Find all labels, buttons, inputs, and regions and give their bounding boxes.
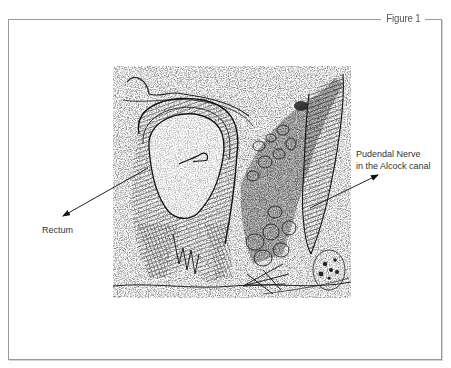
figure-label: Figure 1 xyxy=(381,11,425,25)
pudendal-nerve-label-line1: Pudendal Nerve xyxy=(356,148,431,160)
rectum-label: Rectum xyxy=(42,224,73,236)
rectum-callout: Rectum xyxy=(42,224,73,236)
pudendal-nerve-label-line2: in the Alcock canal xyxy=(356,160,431,172)
anatomical-illustration xyxy=(113,64,351,298)
pudendal-nerve-callout: Pudendal Nerve in the Alcock canal xyxy=(356,148,431,172)
